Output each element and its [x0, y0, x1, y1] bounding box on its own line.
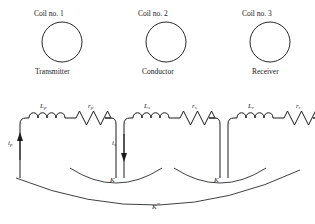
inductor-subscript-3: r: [252, 105, 254, 110]
inductor-subscript-1: p: [44, 105, 47, 110]
current-subscript-1: p: [10, 142, 13, 147]
figure-canvas: Coil no. 1 Transmitter Coil no. 2 Conduc…: [0, 0, 315, 224]
resistor-subscript-1: p: [91, 105, 94, 110]
current-arrow-2-head: [121, 153, 127, 162]
resistor-subscript-3: r: [299, 105, 301, 110]
current-arrow-1-head: [17, 132, 23, 141]
diagram-svg: [0, 0, 315, 224]
coil-circle-1: [42, 22, 82, 62]
coil-title-3: Coil no. 3: [242, 10, 272, 18]
inductor-label-2: Ls: [144, 103, 150, 110]
resistor-label-2: rs: [192, 103, 197, 110]
coil-role-1: Transmitter: [35, 68, 70, 76]
resistor-3: [284, 111, 315, 125]
current-label-1: ip: [8, 140, 12, 147]
circuit-3-top-left-corner: [228, 118, 237, 124]
circuit-1-top-left-corner: [20, 118, 29, 124]
inductor-subscript-2: s: [148, 105, 150, 110]
inductor-label-3: Lr: [248, 103, 254, 110]
coupling-primes-K-prime: ′: [219, 175, 220, 181]
coil-title-1: Coil no. 1: [34, 10, 64, 18]
inductor-label-1: Lp: [40, 103, 46, 110]
resistor-label-3: rr: [296, 103, 301, 110]
current-label-2: is: [112, 140, 116, 147]
coupling-label-K-prime: K′: [214, 176, 220, 184]
circuit-3-right-lead: [313, 118, 315, 178]
coil-circle-2: [146, 22, 186, 62]
resistor-label-1: rp: [88, 103, 93, 110]
coil-title-2: Coil no. 2: [138, 10, 168, 18]
circuit-2-top-left-corner: [124, 118, 133, 124]
coil-role-2: Conductor: [142, 68, 174, 76]
coupling-label-K: K: [110, 176, 115, 184]
circuit-branch-2: [121, 111, 220, 178]
coil-circle-3: [250, 22, 290, 62]
circuit-2-right-lead: [209, 118, 220, 178]
coupling-primes-K-triple-prime: ′′′: [157, 202, 160, 208]
coupling-arc-K-triple-prime: [16, 170, 300, 205]
inductor-2: [133, 113, 169, 118]
circuit-1-right-lead: [105, 118, 116, 178]
coupling-symbol-K: K: [110, 176, 115, 184]
current-subscript-2: s: [114, 142, 116, 147]
circuit-branch-3: [228, 111, 315, 178]
inductor-1: [29, 113, 65, 118]
inductor-3: [237, 113, 273, 118]
coil-role-3: Receiver: [252, 68, 279, 76]
coupling-label-K-triple-prime: K′′′: [152, 203, 160, 211]
circuit-branch-1: [17, 111, 116, 178]
resistor-subscript-2: s: [195, 105, 197, 110]
